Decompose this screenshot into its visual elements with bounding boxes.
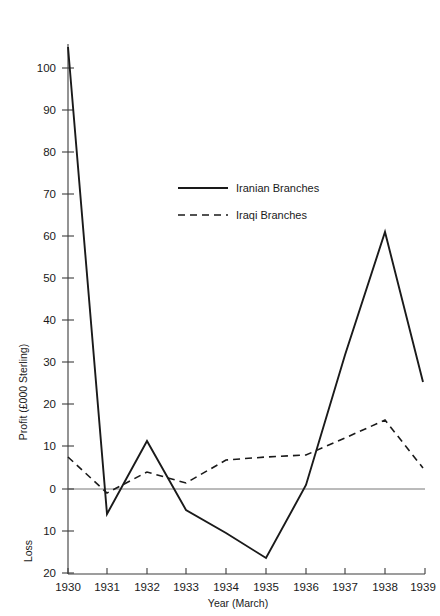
y-tick-label: 70 xyxy=(43,188,56,200)
chart-legend: Iranian Branches Iraqi Branches xyxy=(178,182,320,221)
x-tick-marks xyxy=(68,568,425,574)
y-axis-title: Profit (£000 Sterling) xyxy=(17,344,29,440)
x-tick-label: 1930 xyxy=(55,581,81,593)
x-tick-label: 1934 xyxy=(213,581,239,593)
y-axis-title-loss: Loss xyxy=(22,540,34,562)
x-tick-label: 1932 xyxy=(134,581,160,593)
x-tick-label: 1935 xyxy=(253,581,279,593)
x-axis-title: Year (March) xyxy=(208,597,268,609)
legend-label-iraqi: Iraqi Branches xyxy=(236,209,307,221)
y-tick-label: 30 xyxy=(43,356,56,368)
y-tick-labels: 100 90 80 70 60 50 40 30 20 10 0 10 20 xyxy=(37,62,56,579)
series-iraqi-branches xyxy=(68,420,423,493)
x-tick-label: 1937 xyxy=(332,581,358,593)
x-tick-label: 1936 xyxy=(293,581,319,593)
y-tick-label: 10 xyxy=(43,525,56,537)
y-tick-label: 0 xyxy=(50,483,56,495)
y-tick-label: 80 xyxy=(43,146,56,158)
x-tick-labels: 1930 1931 1932 1933 1934 1935 1936 1937 … xyxy=(55,581,436,593)
x-tick-label: 1933 xyxy=(173,581,199,593)
y-tick-label: 90 xyxy=(43,104,56,116)
y-tick-label: 20 xyxy=(43,567,56,579)
x-tick-label: 1938 xyxy=(372,581,398,593)
series-iranian-branches xyxy=(68,47,423,558)
y-tick-label: 40 xyxy=(43,314,56,326)
y-tick-label: 60 xyxy=(43,230,56,242)
legend-label-iranian: Iranian Branches xyxy=(236,182,320,194)
x-tick-label: 1931 xyxy=(94,581,120,593)
chart-figure: 100 90 80 70 60 50 40 30 20 10 0 10 20 xyxy=(0,0,440,616)
y-tick-label: 50 xyxy=(43,272,56,284)
y-tick-label: 10 xyxy=(43,440,56,452)
x-tick-label: 1939 xyxy=(410,581,436,593)
y-tick-label: 20 xyxy=(43,398,56,410)
line-chart: 100 90 80 70 60 50 40 30 20 10 0 10 20 xyxy=(0,0,440,616)
y-tick-label: 100 xyxy=(37,62,56,74)
